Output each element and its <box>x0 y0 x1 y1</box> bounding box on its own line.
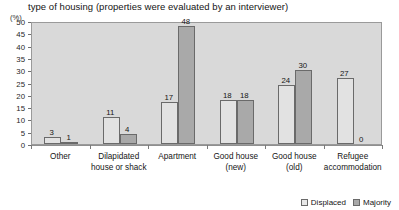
x-axis-category-label: Other <box>50 152 70 163</box>
x-axis-tick-mark <box>265 145 266 149</box>
x-axis-category-label: Refugeeaccommodation <box>324 152 382 173</box>
x-axis-tick-mark <box>382 145 383 149</box>
bar-value-label: 24 <box>281 76 290 85</box>
legend-label: Displaced <box>311 198 346 207</box>
bar-value-label: 1 <box>67 133 71 142</box>
legend-item-majority[interactable]: Majority <box>353 198 391 207</box>
bar-value-label: 17 <box>164 93 173 102</box>
bar-majority-0 <box>61 142 78 144</box>
plot-area <box>31 22 382 145</box>
y-axis-tick-label: 15 <box>5 104 25 113</box>
bar-value-label: 0 <box>359 135 363 144</box>
bar-value-label: 48 <box>181 17 190 26</box>
plot-inner <box>32 23 381 144</box>
x-axis-tick-mark <box>90 145 91 149</box>
y-axis-tick-label: 40 <box>5 42 25 51</box>
bar-majority-3 <box>237 100 254 144</box>
y-axis-tick-label: 50 <box>5 18 25 27</box>
y-axis-tick-label: 25 <box>5 79 25 88</box>
y-axis-tick-label: 35 <box>5 54 25 63</box>
x-axis-category-label: Good house(old) <box>272 152 317 173</box>
bar-value-label: 27 <box>340 69 349 78</box>
bar-value-label: 4 <box>125 125 129 134</box>
bar-value-label: 18 <box>223 91 232 100</box>
y-axis-tick-label: 10 <box>5 116 25 125</box>
bar-displaced-3 <box>220 100 237 144</box>
legend-label: Majority <box>363 198 391 207</box>
bar-value-label: 18 <box>240 91 249 100</box>
y-axis-tick-label: 0 <box>5 141 25 150</box>
x-axis-category-label: Apartment <box>158 152 196 163</box>
y-axis-tick-label: 45 <box>5 30 25 39</box>
chart-legend: DisplacedMajority <box>301 198 391 207</box>
bar-chart: type of housing (properties were evaluat… <box>0 0 399 210</box>
bar-displaced-2 <box>161 102 178 144</box>
bar-value-label: 11 <box>106 108 114 117</box>
x-axis-tick-mark <box>31 145 32 149</box>
bar-displaced-5 <box>337 78 354 144</box>
chart-title: type of housing (properties were evaluat… <box>28 1 288 12</box>
legend-swatch-displaced <box>301 199 308 206</box>
bar-displaced-4 <box>278 85 295 144</box>
legend-swatch-majority <box>353 199 360 206</box>
x-axis-category-label: Good house(new) <box>213 152 258 173</box>
bar-majority-4 <box>295 70 312 144</box>
bar-value-label: 30 <box>298 61 307 70</box>
x-axis-category-label: Dilapidatedhouse or shack <box>91 152 147 173</box>
y-axis-tick-label: 30 <box>5 67 25 76</box>
y-axis-tick-label: 20 <box>5 91 25 100</box>
bar-displaced-1 <box>103 117 120 144</box>
bar-value-label: 3 <box>50 128 54 137</box>
bar-majority-1 <box>120 134 137 144</box>
bar-majority-2 <box>178 26 195 144</box>
x-axis-tick-mark <box>207 145 208 149</box>
y-axis-tick-label: 5 <box>5 128 25 137</box>
x-axis-tick-mark <box>324 145 325 149</box>
bar-displaced-0 <box>44 137 61 144</box>
x-axis-tick-mark <box>148 145 149 149</box>
legend-item-displaced[interactable]: Displaced <box>301 198 346 207</box>
